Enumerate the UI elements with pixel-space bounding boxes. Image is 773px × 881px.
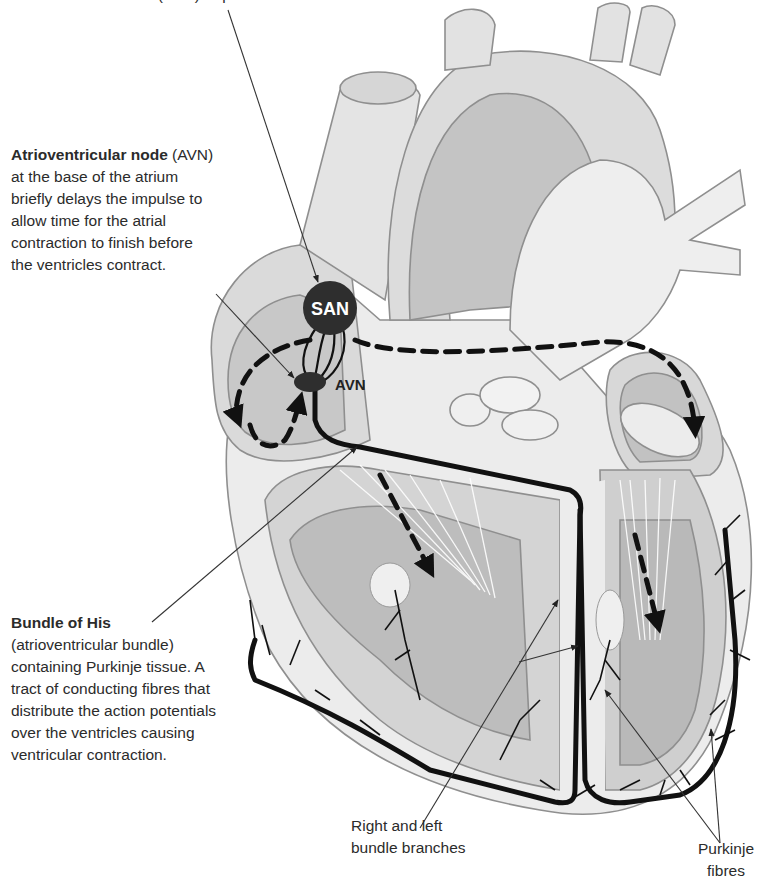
bundle-of-his-heading: Bundle of His	[11, 614, 111, 631]
avn-label: Atrioventricular node (AVN) at the base …	[11, 144, 213, 276]
avn-text: AVN	[335, 376, 366, 393]
purkinje-line: Purkinje	[698, 838, 754, 860]
bundle-of-his-line: over the ventricles causing	[11, 722, 216, 744]
purkinje-line: fibres	[698, 860, 754, 881]
avn-label-line: contraction to finish before	[11, 232, 213, 254]
bundle-of-his-line: ventricular contraction.	[11, 744, 216, 766]
avn-label-line: briefly delays the impulse to	[11, 188, 213, 210]
bundle-of-his-line: containing Purkinje tissue. A	[11, 656, 216, 678]
bundle-of-his-line: distribute the action potentials	[11, 700, 216, 722]
bundle-of-his-line: (atrioventricular bundle)	[11, 634, 216, 656]
avn-label-line: the ventricles contract.	[11, 254, 213, 276]
san-text: SAN	[311, 299, 349, 319]
purkinje-label: Purkinje fibres	[698, 838, 754, 881]
san-node: SAN	[303, 281, 357, 335]
heart-conduction-diagram: Sinoatrial node (SAN) or pacemaker	[0, 0, 773, 881]
bundle-of-his-line: tract of conducting fibres that	[11, 678, 216, 700]
heart-body	[211, 3, 751, 814]
bundle-branches-line: Right and left	[351, 815, 466, 837]
leader-purkinje-2	[711, 729, 720, 843]
avn-label-line: at the base of the atrium	[11, 166, 213, 188]
bundle-branches-label: Right and left bundle branches	[351, 815, 466, 859]
bundle-of-his-label: Bundle of His (atrioventricular bundle) …	[11, 612, 216, 766]
bundle-branches-line: bundle branches	[351, 837, 466, 859]
avn-label-heading-rest: (AVN)	[168, 146, 213, 163]
leader-san	[228, 10, 318, 282]
avn-label-heading: Atrioventricular node	[11, 146, 168, 163]
avn-label-line: allow time for the atrial	[11, 210, 213, 232]
